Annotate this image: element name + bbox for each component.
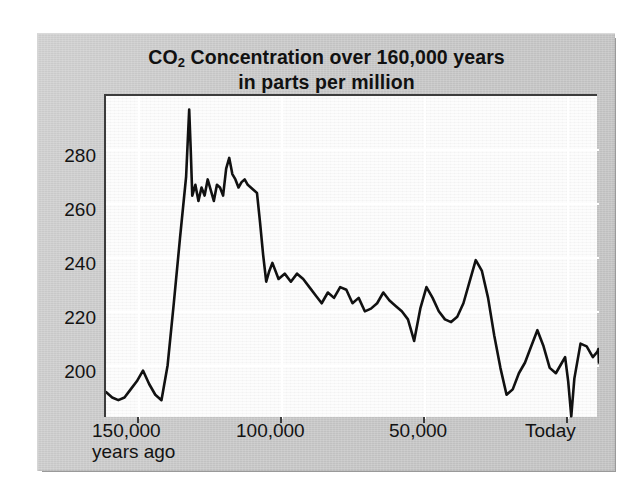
chart-plate: CO2 Concentration over 160,000 years in … (37, 33, 615, 471)
co2-line-chart-svg (106, 96, 599, 419)
y-tick-label-240: 240 (40, 254, 96, 273)
chart-title: CO2 Concentration over 160,000 years in … (38, 46, 615, 93)
x-tick-150000-main: 150,000 (92, 420, 161, 441)
title-co2-subscript: 2 (178, 55, 185, 70)
x-tick-label-50000: 50,000 (389, 420, 447, 441)
x-tick-today-main: Today (525, 420, 576, 441)
y-tick-label-260: 260 (40, 200, 96, 219)
grid-lines (106, 96, 599, 419)
co2-data-line (106, 109, 599, 416)
y-axis-labels: 280 260 240 220 200 (38, 94, 96, 417)
x-tick-label-150000: 150,000 years ago (92, 420, 175, 462)
x-axis-labels: 150,000 years ago 100,000 50,000 Today (38, 420, 615, 470)
y-tick-label-280: 280 (40, 146, 96, 165)
plot-area (104, 94, 597, 417)
y-tick-label-220: 220 (40, 308, 96, 327)
x-tick-label-100000: 100,000 (236, 420, 305, 441)
x-tick-100000-main: 100,000 (236, 420, 305, 441)
x-tick-150000-sub: years ago (92, 441, 175, 462)
x-tick-50000-main: 50,000 (389, 420, 447, 441)
title-co2-text: CO (148, 46, 177, 68)
title-line-1: CO2 Concentration over 160,000 years (148, 46, 505, 68)
title-line-2: in parts per million (38, 71, 615, 93)
scanned-page: CO2 Concentration over 160,000 years in … (0, 0, 644, 503)
title-line-1-rest: Concentration over 160,000 years (185, 46, 505, 68)
x-tick-label-today: Today (525, 420, 576, 441)
y-tick-label-200: 200 (40, 362, 96, 381)
